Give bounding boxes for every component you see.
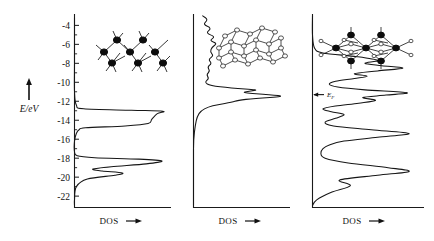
y-axis-tick-label: -10 [57, 78, 70, 88]
right-arrow-icon [245, 218, 261, 223]
panel-1-x-label-group: DOS [99, 216, 142, 226]
y-axis-tick-label: -14 [57, 116, 70, 126]
y-axis-label: E/eV [19, 104, 40, 114]
right-arrow-icon [369, 218, 385, 223]
y-axis-tick-label: -22 [57, 192, 70, 202]
panel-3-x-label: DOS [342, 216, 361, 226]
up-arrow-icon [26, 78, 32, 100]
y-axis-tick-label: -6 [62, 40, 70, 50]
panel-2: DOS [194, 14, 291, 226]
panel-1-dos-curve [74, 18, 164, 206]
y-axis-tick-label: -12 [57, 97, 70, 107]
panel-3: EF DOS [312, 14, 424, 226]
dos-figure-svg: E/eV -4-6-8-10-12-14-16-18-20-22 [0, 0, 434, 241]
panel-3-x-label-group: DOS [342, 216, 385, 226]
dos-figure: E/eV -4-6-8-10-12-14-16-18-20-22 [0, 0, 434, 241]
y-axis-tick-label: -8 [62, 59, 70, 69]
panel-2-x-label-group: DOS [218, 216, 261, 226]
panel-1-structure-inset [96, 31, 170, 72]
panel-3-dos-curve [312, 16, 409, 206]
panel-2-structure-inset [217, 26, 288, 68]
panel-2-x-label: DOS [218, 216, 237, 226]
panel-1-ticks [75, 25, 80, 196]
y-axis-tick-label: -20 [57, 173, 70, 183]
panel-1-x-label: DOS [99, 216, 118, 226]
y-axis-tick-label: -18 [57, 154, 70, 164]
fermi-level-label: EF [326, 91, 335, 100]
right-arrow-icon [126, 218, 142, 223]
fermi-level-marker: EF [313, 91, 335, 100]
panel-2-axes [194, 14, 291, 208]
panel-1: DOS [74, 14, 171, 226]
y-axis-tick-label: -16 [57, 135, 70, 145]
y-axis-tick-labels: -4-6-8-10-12-14-16-18-20-22 [57, 21, 70, 202]
y-axis-label-group: E/eV [19, 78, 40, 114]
y-axis-tick-label: -4 [62, 21, 70, 31]
